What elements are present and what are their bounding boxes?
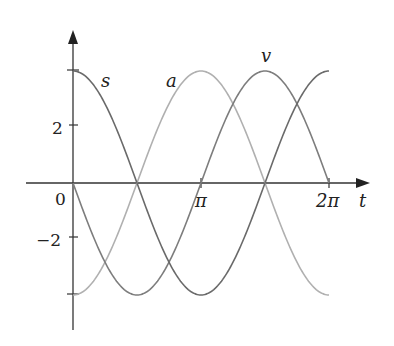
curve-label-v: v [261,45,271,66]
curve-label-a: a [166,70,177,91]
origin-label: 0 [55,189,66,209]
y-tick-label-2: 2 [52,118,63,138]
chart-canvas: 2 −2 0 π 2π t s a v [0,0,394,346]
x-axis-label: t [359,190,367,211]
y-tick-label-neg2: −2 [36,230,61,250]
x-tick-label-2pi: 2π [315,190,340,211]
curve-label-s: s [101,70,110,91]
x-axis-arrow-icon [356,178,370,188]
y-axis-arrow-icon [68,30,78,44]
motion-graph: 2 −2 0 π 2π t s a v [0,0,394,346]
x-tick-label-pi: π [194,190,208,211]
